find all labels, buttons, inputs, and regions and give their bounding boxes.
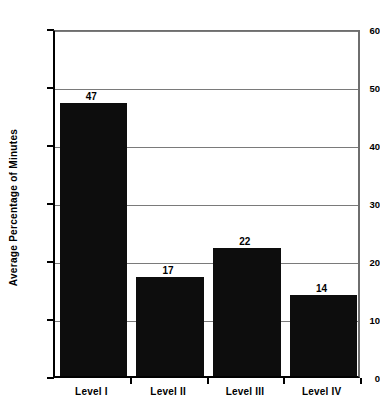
- bar-chart: Average Percentage of Minutes 0102030405…: [0, 0, 380, 415]
- x-tick-mark: [283, 378, 285, 384]
- bar-value-label: 17: [134, 265, 202, 276]
- y-axis-title: Average Percentage of Minutes: [0, 0, 26, 415]
- x-category-label: Level II: [130, 386, 207, 397]
- bar: [60, 103, 128, 376]
- bar-value-label: 47: [58, 91, 126, 102]
- x-tick-mark: [130, 378, 132, 384]
- x-tick-mark: [360, 378, 362, 384]
- plot-area: [53, 30, 360, 378]
- bar-value-label: 22: [211, 236, 279, 247]
- x-tick-mark: [207, 378, 209, 384]
- gridline: [55, 31, 358, 32]
- x-category-label: Level IV: [283, 386, 360, 397]
- bar: [290, 295, 358, 376]
- x-category-label: Level III: [207, 386, 284, 397]
- x-category-label: Level I: [53, 386, 130, 397]
- bar-value-label: 14: [288, 283, 356, 294]
- bar: [213, 248, 281, 376]
- gridline: [55, 89, 358, 90]
- bar: [136, 277, 204, 376]
